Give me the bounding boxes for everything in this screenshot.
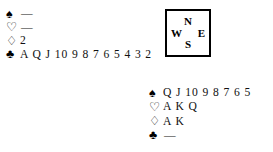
- south-spade-row: ♠ Q J 10 9 8 7 6 5: [149, 86, 251, 100]
- hand-south: ♠ Q J 10 9 8 7 6 5 ♡ A K Q ♢ A K ♣ —: [149, 86, 251, 143]
- club-icon: ♣: [6, 48, 19, 61]
- west-spade-cards: —: [19, 8, 33, 20]
- compass-inner: N W E S: [167, 11, 209, 55]
- spade-icon: ♠: [149, 87, 162, 100]
- south-heart-cards: A K Q: [162, 101, 198, 113]
- west-heart-cards: —: [19, 22, 33, 34]
- bridge-deal-diagram: ♠ — ♡ — ♢ 2 ♣ A Q J 10 9 8 7 6 5 4 3 2 N…: [0, 0, 273, 152]
- west-diamond-row: ♢ 2: [6, 34, 152, 48]
- compass-label-west: W: [171, 28, 182, 39]
- diamond-icon: ♢: [6, 35, 19, 48]
- compass-label-east: E: [198, 28, 205, 39]
- compass-box: N W E S: [165, 9, 211, 57]
- west-club-cards: A Q J 10 9 8 7 6 5 4 3 2: [19, 49, 152, 61]
- heart-icon: ♡: [149, 101, 162, 114]
- south-diamond-row: ♢ A K: [149, 114, 251, 128]
- compass-label-south: S: [185, 39, 191, 50]
- west-club-row: ♣ A Q J 10 9 8 7 6 5 4 3 2: [6, 48, 152, 62]
- south-club-row: ♣ —: [149, 129, 251, 143]
- spade-icon: ♠: [6, 8, 19, 21]
- west-heart-row: ♡ —: [6, 21, 152, 35]
- compass-label-north: N: [184, 16, 192, 27]
- west-spade-row: ♠ —: [6, 7, 152, 21]
- south-spade-cards: Q J 10 9 8 7 6 5: [162, 87, 251, 99]
- south-heart-row: ♡ A K Q: [149, 100, 251, 114]
- diamond-icon: ♢: [149, 115, 162, 128]
- heart-icon: ♡: [6, 21, 19, 34]
- south-club-cards: —: [162, 130, 176, 142]
- west-diamond-cards: 2: [19, 35, 27, 47]
- hand-west: ♠ — ♡ — ♢ 2 ♣ A Q J 10 9 8 7 6 5 4 3 2: [6, 7, 152, 61]
- club-icon: ♣: [149, 129, 162, 142]
- south-diamond-cards: A K: [162, 116, 185, 128]
